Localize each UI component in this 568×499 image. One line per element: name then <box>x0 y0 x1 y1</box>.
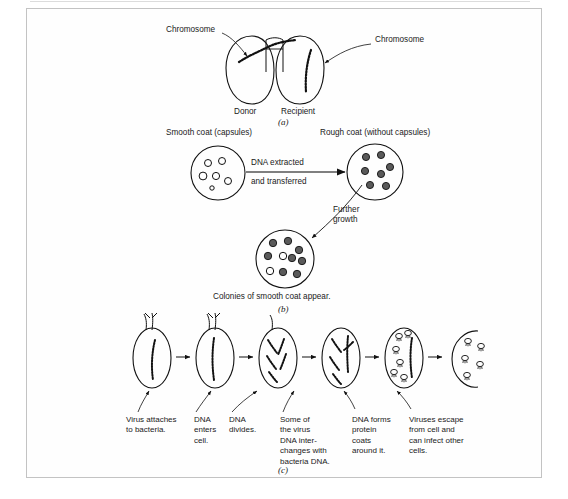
caption-line: Some of <box>280 415 348 425</box>
panel-c-step-6-caption: Viruses escape from cell and can infect … <box>409 415 487 457</box>
panel-c-step-1-caption: Virus attaches to bacteria. <box>126 415 192 436</box>
rough-coat-dots <box>361 151 393 189</box>
panel-c-step-4-caption: Some of the virus DNA inter- changes wit… <box>280 415 348 467</box>
caption-line: cells. <box>409 446 487 456</box>
phage-cell-2 <box>196 313 234 388</box>
phage-cell-4 <box>322 328 360 388</box>
caption-line: coats <box>352 436 408 446</box>
panel-b-growth-label-line1: Further <box>333 205 359 216</box>
caption-line: Virus attaches <box>126 415 192 425</box>
conjugation-bridge-top <box>266 38 283 40</box>
smooth-coat-dots <box>199 158 231 191</box>
rough-coat-circle <box>347 144 403 200</box>
panel-a-diagram <box>222 33 371 104</box>
caption-line: DNA inter- <box>280 436 348 446</box>
recipient-chromosome-strand <box>306 50 311 92</box>
panel-b-letter: (b) <box>278 304 289 314</box>
caption-line: protein <box>352 425 408 435</box>
caption-line: DNA forms <box>352 415 408 425</box>
panel-b-transfer-label-line2: and transferred <box>251 177 307 188</box>
panel-b-growth-label-line2: growth <box>333 215 358 226</box>
phage-cell-1 <box>133 313 171 388</box>
donor-chromosome-strand <box>239 40 296 62</box>
caption-line: DNA <box>229 415 271 425</box>
caption-line: from cell and <box>409 425 487 435</box>
panel-a-letter: (a) <box>278 117 289 127</box>
caption-line: Viruses escape <box>409 415 487 425</box>
caption-line: changes with <box>280 446 348 456</box>
panel-b-rough-title: Rough coat (without capsules) <box>320 128 430 139</box>
panel-b-smooth-title: Smooth coat (capsules) <box>166 128 252 139</box>
phage-cell-6-virions <box>462 338 485 380</box>
panel-c-step-5-caption: DNA forms protein coats around it. <box>352 415 408 457</box>
panel-a-donor-label: Donor <box>234 107 256 118</box>
phage-cell-6 <box>452 331 484 387</box>
panel-a-chromosome-right-label: Chromosome <box>375 35 424 46</box>
caption-line: can infect other <box>409 436 487 446</box>
phage-cell-5-virions <box>391 330 412 382</box>
donor-cell-outline <box>226 36 274 104</box>
figure-page: Chromosome Chromosome Donor Recipient (a… <box>0 0 568 499</box>
panel-b-transfer-label-line1: DNA extracted <box>251 158 304 169</box>
panel-a-recipient-label: Recipient <box>281 107 315 118</box>
panel-c-step-2-caption: DNA enters cell. <box>194 415 228 446</box>
phage-cell-5 <box>385 328 423 388</box>
panel-c-step-3-caption: DNA divides. <box>229 415 271 436</box>
caption-line: DNA <box>194 415 228 425</box>
panel-a-chromosome-left-label: Chromosome <box>166 25 215 36</box>
caption-line: enters <box>194 425 228 435</box>
caption-line: bacteria DNA. <box>280 457 348 467</box>
chromosome-right-leader <box>325 44 371 63</box>
caption-line: to bacteria. <box>126 425 192 435</box>
caption-line: the virus <box>280 425 348 435</box>
caption-line: cell. <box>194 436 228 446</box>
panel-c-diagram <box>133 313 484 412</box>
caption-line: around it. <box>352 446 408 456</box>
panel-b-colony-label: Colonies of smooth coat appear. <box>213 292 330 303</box>
panel-c-letter: (c) <box>278 465 288 475</box>
caption-line: divides. <box>229 425 271 435</box>
phage-cell-3 <box>259 315 297 388</box>
panel-c-leaders <box>138 391 411 412</box>
